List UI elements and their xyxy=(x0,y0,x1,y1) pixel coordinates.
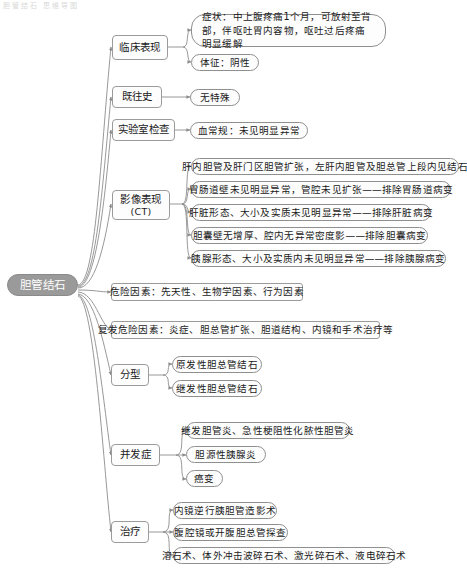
leaf-treatment-surgery[interactable]: 腹腔镜或开腹胆总管探查 xyxy=(173,524,288,541)
leaf-label: 肝脏形态、大小及实质未见明显异常——排除肝脏病变 xyxy=(189,207,433,219)
branch-node-treatment[interactable]: 治疗 xyxy=(111,521,149,543)
leaf-imaging-4[interactable]: 胆囊壁无增厚、腔内无异常密度影——排除胆囊病变 xyxy=(191,227,428,244)
branch-sublabel-imaging: (CT) xyxy=(130,206,151,218)
leaf-classification-primary[interactable]: 原发性胆总管结石 xyxy=(172,356,262,373)
leaf-label: 无特殊 xyxy=(200,92,231,104)
leaf-label: 胰腺形态、大小及实质内未见明显异常——排除胰腺病变 xyxy=(191,253,445,265)
leaf-label: 继发胆管炎、急性梗阻性化脓性胆管炎 xyxy=(181,425,354,437)
leaf-label: 胆囊壁无增厚、腔内无异常密度影——排除胆囊病变 xyxy=(193,230,427,242)
leaf-label: 胃肠道壁未见明显异常，管腔未见扩张——排除胃肠道病变 xyxy=(189,184,453,196)
leaf-lab-bloodroutine[interactable]: 血常规：未见明显异常 xyxy=(190,122,308,139)
branch-label-complications: 并发症 xyxy=(120,448,151,461)
leaf-label: 腹腔镜或开腹胆总管探查 xyxy=(174,527,286,539)
leaf-label: 血常规：未见明显异常 xyxy=(198,125,300,137)
leaf-imaging-1[interactable]: 肝内胆管及肝门区胆管扩张，左肝内胆管及胆总管上段内见结石 xyxy=(191,158,459,175)
leaf-label: 胆源性胰腺炎 xyxy=(195,449,256,461)
branch-label-imaging: 影像表现 xyxy=(120,193,161,206)
branch-label-history: 既往史 xyxy=(122,90,153,103)
leaf-imaging-3[interactable]: 肝脏形态、大小及实质未见明显异常——排除肝脏病变 xyxy=(191,204,431,221)
branch-node-clinical[interactable]: 临床表现 xyxy=(112,35,168,60)
leaf-clinical-symptoms[interactable]: 症状：中上腹疼痛1个月，可放射至背部，伴呕吐胃内容物，呕吐过后疼痛明显缓解 xyxy=(191,14,386,47)
leaf-clinical-signs[interactable]: 体征：阴性 xyxy=(191,54,259,71)
branch-node-risk[interactable]: 危险因素：先天性、生物学因素、行为因素 xyxy=(111,283,303,301)
leaf-classification-secondary[interactable]: 继发性胆总管结石 xyxy=(172,380,262,397)
root-label: 胆管结石 xyxy=(20,278,66,292)
branch-node-classification[interactable]: 分型 xyxy=(111,364,149,386)
mindmap-canvas: 胆管结石 思维导图 xyxy=(0,0,467,578)
page-title-fragment: 胆管结石 思维导图 xyxy=(3,0,79,10)
branch-node-recurrence[interactable]: 复发危险因素：炎症、胆总管扩张、胆道结构、内镜和手术治疗等 xyxy=(111,321,380,339)
branch-label-lab: 实验室检查 xyxy=(118,123,170,136)
branch-node-complications[interactable]: 并发症 xyxy=(111,444,160,466)
leaf-label: 体征：阴性 xyxy=(200,57,251,69)
leaf-label: 肝内胆管及肝门区胆管扩张，左肝内胆管及胆总管上段内见结石 xyxy=(182,161,467,173)
leaf-label: 症状：中上腹疼痛1个月，可放射至背部，伴呕吐胃内容物，呕吐过后疼痛明显缓解 xyxy=(202,10,375,52)
leaf-complication-cholangitis[interactable]: 继发胆管炎、急性梗阻性化脓性胆管炎 xyxy=(186,422,350,439)
leaf-label: 原发性胆总管结石 xyxy=(176,359,258,371)
leaf-imaging-5[interactable]: 胰腺形态、大小及实质内未见明显异常——排除胰腺病变 xyxy=(191,250,446,267)
leaf-treatment-ercp[interactable]: 内镜逆行胰胆管造影术 xyxy=(173,502,277,519)
branch-node-imaging[interactable]: 影像表现 (CT) xyxy=(112,190,170,220)
branch-label-classification: 分型 xyxy=(120,368,141,381)
branch-label-risk: 危险因素：先天性、生物学因素、行为因素 xyxy=(110,286,304,298)
leaf-label: 癌变 xyxy=(194,473,214,485)
root-node[interactable]: 胆管结石 xyxy=(7,274,78,296)
branch-label-recurrence: 复发危险因素：炎症、胆总管扩张、胆道结构、内镜和手术治疗等 xyxy=(98,324,394,336)
leaf-label: 内镜逆行胰胆管造影术 xyxy=(174,505,276,517)
leaf-treatment-lithotripsy[interactable]: 溶石术、体外冲击波碎石术、激光碎石术、液电碎石术 xyxy=(173,547,395,564)
leaf-complication-pancreatitis[interactable]: 胆源性胰腺炎 xyxy=(186,446,266,463)
branch-node-history[interactable]: 既往史 xyxy=(112,86,162,108)
leaf-history-none[interactable]: 无特殊 xyxy=(190,89,240,106)
leaf-label: 溶石术、体外冲击波碎石术、激光碎石术、液电碎石术 xyxy=(162,550,407,562)
branch-label-treatment: 治疗 xyxy=(120,525,141,538)
branch-node-lab[interactable]: 实验室检查 xyxy=(112,119,175,141)
leaf-imaging-2[interactable]: 胃肠道壁未见明显异常，管腔未见扩张——排除胃肠道病变 xyxy=(191,181,451,198)
leaf-complication-carcinoma[interactable]: 癌变 xyxy=(186,470,223,487)
leaf-label: 继发性胆总管结石 xyxy=(176,383,258,395)
branch-label-clinical: 临床表现 xyxy=(119,41,160,54)
